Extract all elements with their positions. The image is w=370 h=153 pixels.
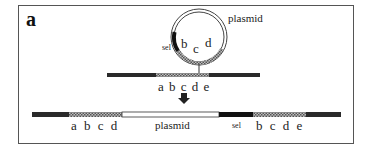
- plasmid-letter-b: b: [181, 36, 188, 52]
- result-right-letters: b c d e: [256, 118, 304, 134]
- chromosome-letters: a b c d e: [158, 79, 210, 95]
- result-left-letters: a b c d: [71, 118, 119, 134]
- panel-label: a: [26, 8, 36, 31]
- result-plasmid-label: plasmid: [155, 119, 190, 131]
- plasmid-letter-c: c: [193, 41, 199, 57]
- result-sel-label: sel: [232, 121, 241, 130]
- sel-label: sel: [162, 43, 171, 52]
- plasmid-label: plasmid: [228, 12, 263, 24]
- plasmid-letter-d: d: [205, 35, 212, 51]
